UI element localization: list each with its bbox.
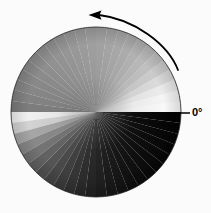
disk-rim-shading <box>11 27 181 197</box>
disk-diagram-canvas <box>0 0 211 213</box>
zero-degree-label: 0° <box>192 107 203 118</box>
rotating-gradient-disk-figure: 0° <box>0 0 211 213</box>
disk-gradient-group <box>11 27 181 197</box>
